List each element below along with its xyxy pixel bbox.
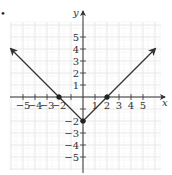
y-tick-label: −2 <box>64 116 79 127</box>
point-marker <box>80 118 85 123</box>
y-tick-label: 5 <box>73 32 79 43</box>
y-tick-label: 1 <box>73 80 79 91</box>
y-tick-label: 3 <box>73 56 79 67</box>
y-tick-label: −3 <box>64 128 79 139</box>
x-tick-label: 4 <box>128 100 134 111</box>
x-tick-label: 3 <box>116 100 122 111</box>
x-tick-label: 5 <box>140 100 146 111</box>
y-tick-label: 4 <box>73 44 79 55</box>
figure-bullet: • <box>0 8 6 19</box>
graph-figure: • −5−4−3−212345 −5−4−3−212345 x y <box>0 0 172 175</box>
x-tick-label: 2 <box>104 100 110 111</box>
grid <box>10 22 161 170</box>
point-marker <box>104 94 109 99</box>
y-tick-label: −5 <box>64 152 79 163</box>
y-axis-label: y <box>72 7 79 18</box>
y-tick-label: −4 <box>64 140 79 151</box>
x-axis-label: x <box>162 97 168 108</box>
y-tick-label: 2 <box>73 68 79 79</box>
point-marker <box>56 94 61 99</box>
